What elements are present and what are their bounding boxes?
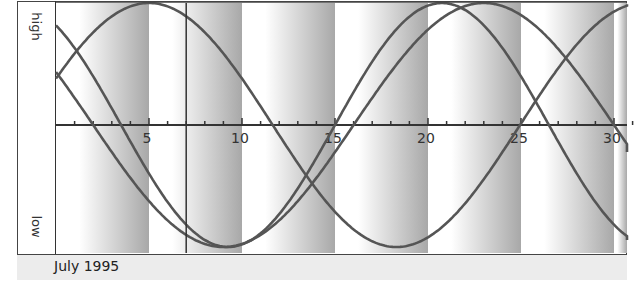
month-label: July 1995 bbox=[54, 258, 119, 274]
x-tick-label: 10 bbox=[231, 130, 249, 146]
shaded-bands bbox=[56, 3, 627, 253]
shaded-band bbox=[428, 3, 521, 253]
month-footer: July 1995 bbox=[17, 254, 627, 280]
x-tick-label: 20 bbox=[417, 130, 435, 146]
x-tick-label: 5 bbox=[143, 130, 152, 146]
shaded-band bbox=[521, 3, 614, 253]
shaded-band bbox=[335, 3, 428, 253]
shaded-band bbox=[242, 3, 335, 253]
